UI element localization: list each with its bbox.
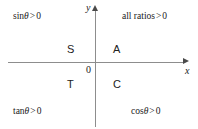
quadrant-letter-t: T	[67, 79, 74, 90]
y-axis-line	[95, 9, 96, 127]
cast-quadrant-diagram: y x 0 S A T C sinθ>0 all ratios>0 tanθ>0…	[0, 0, 198, 129]
annotation-top-right-function: all ratios	[122, 11, 155, 21]
x-axis-line	[8, 62, 184, 63]
annotation-bottom-left: tanθ>0	[13, 107, 41, 117]
annotation-top-left-value: 0	[36, 11, 41, 21]
origin-label: 0	[86, 65, 91, 75]
annotation-bottom-left-function: tan	[13, 106, 25, 116]
y-axis-label: y	[86, 3, 90, 13]
annotation-top-left: sinθ>0	[13, 12, 41, 22]
arrow-up-icon	[92, 5, 98, 11]
annotation-bottom-right: cosθ>0	[131, 107, 160, 117]
quadrant-letter-s: S	[67, 44, 74, 55]
quadrant-letter-c: C	[113, 79, 121, 90]
annotation-bottom-right-function: cos	[131, 106, 144, 116]
x-axis-label: x	[185, 66, 189, 76]
annotation-bottom-left-operator: >	[29, 106, 36, 116]
annotation-bottom-right-operator: >	[148, 106, 155, 116]
annotation-top-left-function: sin	[13, 11, 24, 21]
quadrant-letter-a: A	[113, 44, 120, 55]
annotation-top-right-value: 0	[162, 11, 167, 21]
annotation-top-right: all ratios>0	[122, 12, 167, 22]
arrow-right-icon	[183, 58, 189, 64]
annotation-bottom-left-value: 0	[37, 106, 42, 116]
annotation-bottom-right-value: 0	[156, 106, 161, 116]
